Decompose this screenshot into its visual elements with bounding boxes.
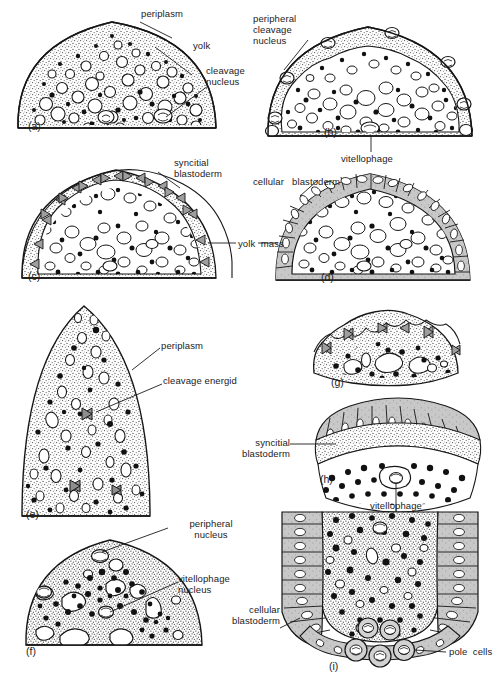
label-cellular-blastoderm-i: cellular blastoderm: [208, 604, 280, 626]
panel-letter-i: (i): [329, 660, 338, 672]
panel-letter-f: (f): [26, 645, 36, 657]
panel-e-drawing: [22, 306, 162, 516]
panel-i-drawing: [280, 512, 478, 667]
panel-f-drawing: [26, 528, 202, 648]
panel-c-drawing: [22, 170, 236, 278]
label-yolk-a: yolk: [193, 40, 210, 51]
label-syncitial-blastoderm-h: syncitial blastoderm: [218, 437, 290, 459]
panel-letter-b: (b): [324, 126, 337, 138]
label-vitellophage-h: vitellophage: [356, 500, 436, 511]
label-vitellophage-nucleus-f: vitellophage nucleus: [178, 573, 230, 595]
panel-g-drawing: [314, 310, 460, 385]
panel-letter-c: (c): [28, 270, 40, 282]
label-syncitial-blastoderm-c: syncitial blastoderm: [174, 157, 222, 179]
label-peripheral-nucleus-f: peripheral nucleus: [168, 518, 254, 540]
blastoderm-cells-right: [430, 512, 478, 648]
label-pole-cells-i: pole cells: [449, 646, 492, 657]
label-cellular-blastoderm-d: cellular blastoderm: [253, 176, 340, 187]
panel-letter-d: (d): [321, 271, 334, 283]
label-peripheral-cleavage-nucleus-b: peripheral cleavage nucleus: [253, 13, 296, 46]
label-periplasm-a: periplasm: [141, 8, 183, 19]
panel-d-drawing: [258, 174, 470, 280]
panel-letter-e: (e): [26, 508, 39, 520]
label-vitellophage-b: vitellophage: [341, 153, 393, 164]
label-periplasm-e: periplasm: [161, 340, 203, 351]
panel-a-drawing: [18, 22, 216, 135]
label-cleavage-energid-e: cleavage energid: [163, 375, 237, 386]
figure-drawing: [0, 0, 495, 676]
label-cleavage-nucleus-a: cleavage nucleus: [206, 65, 245, 87]
figure-canvas: periplasm yolk cleavage nucleus (a) peri…: [0, 0, 495, 676]
blastoderm-cells-left: [282, 512, 330, 648]
label-yolk-mass: yolk mass: [238, 238, 284, 249]
panel-letter-a: (a): [28, 120, 41, 132]
panel-b-drawing: [266, 27, 473, 152]
panel-letter-g: (g): [331, 376, 344, 388]
panel-letter-h: (h): [320, 473, 333, 485]
